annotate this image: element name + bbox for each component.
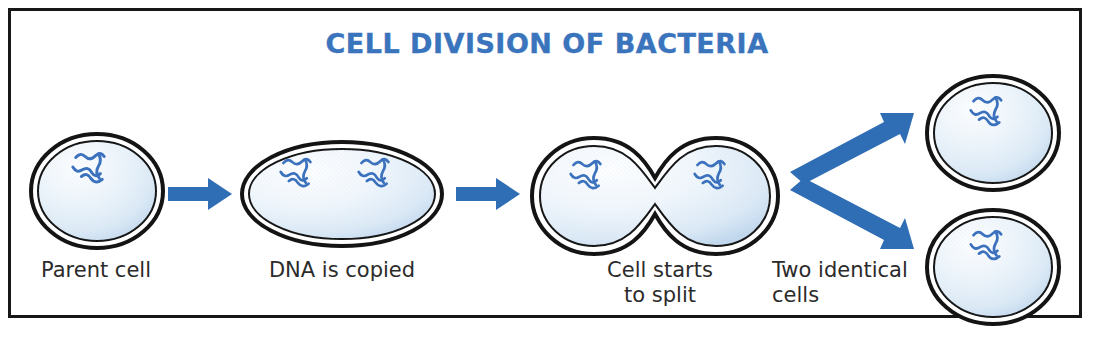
arrow-2	[456, 176, 522, 212]
stage-label-splitting-cell: Cell starts to split	[570, 258, 750, 308]
cell-division-diagram: CELL DIVISION OF BACTERIA	[0, 0, 1094, 343]
parent-cell	[26, 128, 168, 254]
daughter-cell-top-wall	[927, 76, 1059, 190]
splitting-cell-wall	[532, 138, 778, 254]
parent-cell-wall	[31, 134, 163, 248]
arrow-4	[788, 182, 918, 266]
dna-copied-cell	[238, 136, 446, 252]
dna-copied-cell-wall	[242, 142, 442, 246]
daughter-cell-top	[922, 70, 1064, 196]
stage-label-parent-cell: Parent cell	[6, 258, 186, 283]
splitting-cell	[528, 134, 782, 258]
diagram-stage: Parent cell	[0, 0, 1094, 343]
arrow-1	[168, 176, 234, 212]
stage-label-daughter-cells: Two identical cells	[772, 258, 982, 308]
arrow-3	[788, 104, 918, 188]
stage-label-dna-copied: DNA is copied	[232, 258, 452, 283]
